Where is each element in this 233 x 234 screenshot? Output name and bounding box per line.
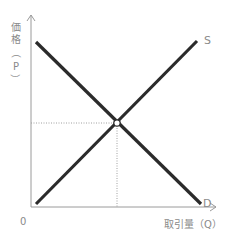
y-axis-label-char-3: （ [10, 48, 21, 58]
equilibrium-point [114, 120, 120, 126]
x-axis-label: 取引量（Q） [164, 219, 222, 230]
y-axis-label-char-4: P [13, 61, 19, 72]
demand-label: D [203, 197, 211, 210]
y-axis-label-char-1: 価 [11, 21, 21, 33]
supply-demand-chart: S D 取引量（Q） 0 価 格 （ P ） [0, 0, 233, 234]
y-axis-label-char-2: 格 [11, 33, 21, 45]
y-axis-label-char-5: ） [9, 74, 20, 84]
origin-label: 0 [20, 216, 26, 227]
supply-label: S [204, 34, 211, 47]
